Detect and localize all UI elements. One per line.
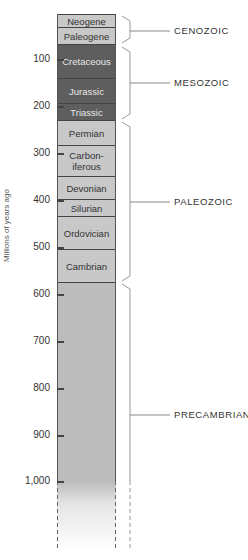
era-label-cenozoic: CENOZOIC — [174, 25, 229, 36]
bracket-paleozoic — [122, 122, 130, 281]
axis-tick — [57, 153, 64, 155]
era-label-paleozoic: PALEOZOIC — [174, 196, 233, 207]
axis-tick — [57, 435, 64, 437]
axis-tick — [57, 200, 64, 202]
era-label-precambrian: PRECAMBRIAN — [174, 409, 248, 420]
bracket-mesozoic — [122, 47, 130, 119]
axis-tick — [57, 294, 64, 296]
axis-tick-label: 200 — [0, 100, 50, 111]
bracket-precambrian — [122, 284, 130, 481]
axis-tick-label: 700 — [0, 335, 50, 346]
bracket-cenozoic — [122, 16, 130, 43]
axis-tick — [57, 481, 64, 483]
axis-tick — [57, 59, 64, 61]
era-label-mesozoic: MESOZOIC — [174, 77, 229, 88]
axis-tick-label: 800 — [0, 382, 50, 393]
axis-tick-label: 900 — [0, 429, 50, 440]
axis-tick-label: 100 — [0, 53, 50, 64]
axis-tick — [57, 247, 64, 249]
axis-tick — [57, 388, 64, 390]
axis-tick — [57, 106, 64, 108]
axis-tick-label: 1,000 — [0, 475, 50, 486]
axis-tick-label: 600 — [0, 288, 50, 299]
axis-tick — [57, 341, 64, 343]
y-axis-label: Millions of years ago — [2, 189, 11, 262]
axis-tick-label: 300 — [0, 147, 50, 158]
